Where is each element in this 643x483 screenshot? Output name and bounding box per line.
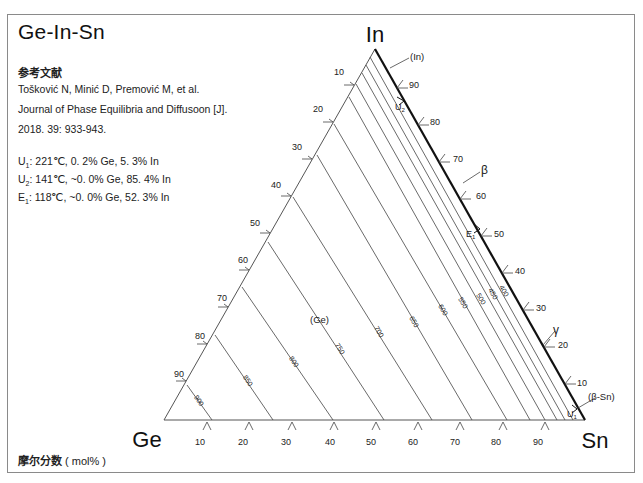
point-label-u2: U2 [395, 102, 406, 113]
right-tick-10: 10 [577, 378, 587, 388]
bottom-tick-50: 50 [366, 437, 376, 447]
left-tick-50: 50 [250, 218, 260, 228]
phase-label-ge: (Ge) [310, 314, 329, 325]
isotherm-label-600: 600 [437, 303, 449, 317]
leader-beta [463, 172, 480, 183]
isotherm-label-850: 850 [242, 374, 254, 388]
isotherm-label-750: 750 [334, 342, 346, 356]
isotherm-label-700: 700 [373, 325, 385, 339]
vertex-label-in: In [366, 22, 384, 47]
right-tick-40: 40 [515, 266, 525, 276]
right-tick-80: 80 [430, 117, 440, 127]
bottom-tick-70: 70 [450, 437, 460, 447]
bottom-tick-80: 80 [491, 437, 501, 447]
phase-label-beta-sn: (β-Sn) [588, 391, 615, 402]
right-tick-20: 20 [558, 340, 568, 350]
left-tick-90: 90 [174, 369, 184, 379]
bottom-tick-60: 60 [408, 437, 418, 447]
edge-in-sn [375, 49, 585, 420]
left-tick-70: 70 [217, 293, 227, 303]
vertex-label-ge: Ge [132, 427, 161, 452]
left-tick-80: 80 [195, 331, 205, 341]
left-tick-20: 20 [313, 104, 323, 114]
left-tick-40: 40 [271, 180, 281, 190]
right-tick-50: 50 [494, 229, 504, 239]
bottom-tick-10: 10 [195, 437, 205, 447]
phase-label-in: (In) [410, 51, 424, 62]
point-label-u1: U1 [567, 409, 578, 420]
edge-ge-in [164, 49, 375, 420]
left-tick-10: 10 [334, 67, 344, 77]
isotherm-label-650: 650 [408, 315, 420, 329]
bottom-tick-30: 30 [281, 437, 291, 447]
isotherm-lines [187, 57, 573, 420]
point-label-e1: E1 [466, 229, 476, 240]
left-tick-30: 30 [292, 142, 302, 152]
isotherm-label-800: 800 [288, 355, 300, 369]
phase-label-beta: β [481, 163, 488, 177]
bottom-tick-20: 20 [238, 437, 248, 447]
bottom-tick-40: 40 [325, 437, 335, 447]
ternary-diagram: 900 850 800 750 700 650 600 550 500 450 … [0, 0, 643, 483]
bottom-axis-ticks [203, 422, 549, 430]
leader-in [390, 58, 409, 68]
right-tick-60: 60 [476, 191, 486, 201]
bottom-tick-90: 90 [533, 437, 543, 447]
right-tick-90: 90 [409, 80, 419, 90]
right-tick-30: 30 [536, 303, 546, 313]
right-tick-70: 70 [453, 154, 463, 164]
vertex-label-sn: Sn [582, 428, 609, 453]
left-tick-60: 60 [238, 255, 248, 265]
isotherm-label-900: 900 [193, 394, 205, 408]
phase-label-gamma: γ [553, 323, 559, 337]
